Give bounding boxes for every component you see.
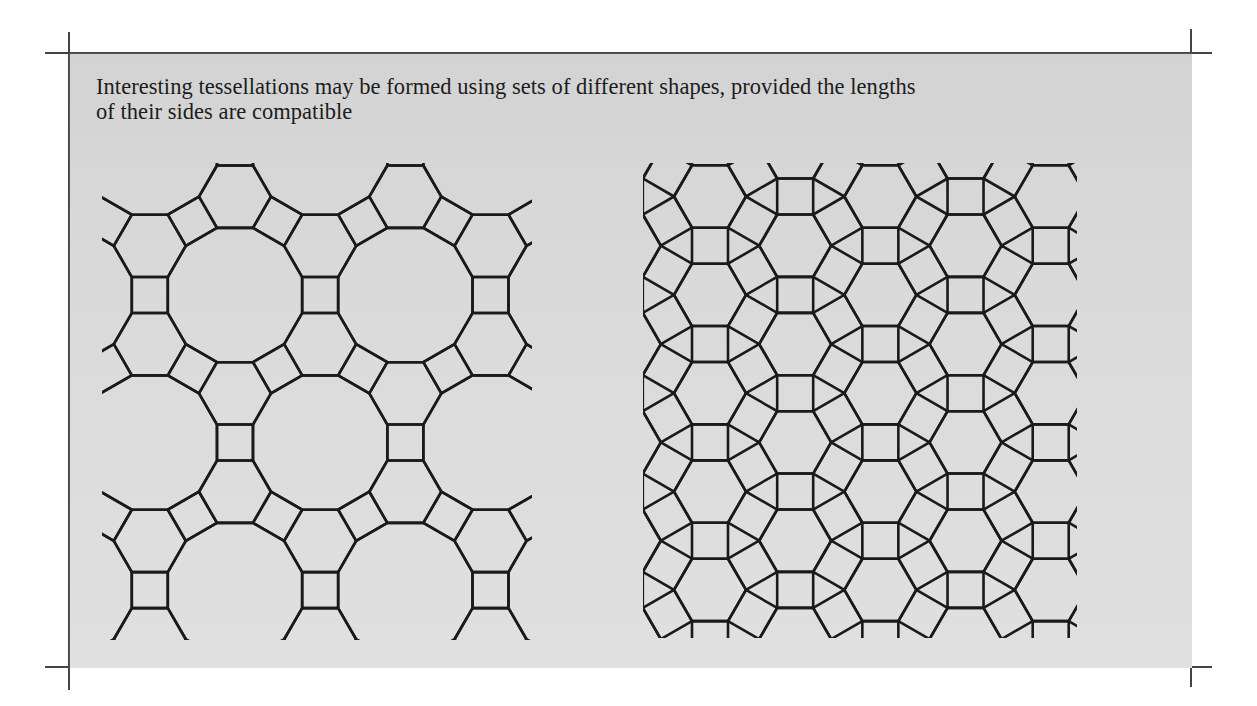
dodecagon xyxy=(423,80,557,214)
hexagon xyxy=(844,559,916,621)
square xyxy=(558,147,607,196)
square xyxy=(813,688,862,706)
square xyxy=(984,639,1033,688)
square xyxy=(764,49,813,98)
square xyxy=(1154,590,1203,639)
square xyxy=(728,49,777,98)
hexagon xyxy=(1015,0,1087,31)
square xyxy=(934,197,983,246)
square xyxy=(692,424,728,460)
dodecagon xyxy=(509,228,643,362)
hexagon xyxy=(1100,215,1172,277)
hexagon xyxy=(930,411,1002,473)
square xyxy=(168,639,217,688)
square xyxy=(643,492,692,541)
hexagon xyxy=(795,18,867,80)
dodecagon xyxy=(0,670,47,706)
square xyxy=(1069,98,1118,147)
square xyxy=(594,197,643,246)
square xyxy=(643,688,692,706)
square xyxy=(338,492,387,541)
hexagon xyxy=(844,165,916,227)
hexagon xyxy=(199,67,271,129)
square xyxy=(984,590,1033,639)
hexagon xyxy=(114,215,186,277)
square xyxy=(1154,49,1203,98)
square xyxy=(692,228,728,264)
hexagon xyxy=(844,657,916,706)
square xyxy=(1033,326,1069,362)
hexagon xyxy=(455,18,527,80)
square xyxy=(728,393,777,442)
hexagon xyxy=(759,608,831,670)
square xyxy=(1069,541,1118,590)
square xyxy=(692,326,728,362)
square xyxy=(1069,147,1118,196)
square xyxy=(0,492,47,541)
square xyxy=(643,344,692,393)
tiling-4-6-12 xyxy=(0,0,1069,706)
hexagon xyxy=(369,362,441,424)
dodecagon xyxy=(0,228,132,362)
square xyxy=(1203,621,1239,657)
square xyxy=(1154,197,1203,246)
square xyxy=(1069,639,1118,688)
square xyxy=(0,49,47,98)
square xyxy=(813,442,862,491)
hexagon xyxy=(1185,559,1257,621)
square xyxy=(643,0,679,18)
dodecagon xyxy=(0,80,47,214)
hexagon xyxy=(199,166,271,228)
hexagon xyxy=(844,362,916,424)
hexagon xyxy=(710,657,782,706)
square xyxy=(1154,639,1203,688)
square xyxy=(607,572,643,608)
square xyxy=(777,670,813,706)
square xyxy=(728,130,764,166)
square xyxy=(898,442,947,491)
square xyxy=(813,147,862,196)
square xyxy=(1118,80,1154,116)
square xyxy=(558,344,607,393)
hexagon xyxy=(710,67,782,129)
square xyxy=(168,49,217,98)
hexagon xyxy=(455,510,527,572)
square xyxy=(777,474,813,510)
hexagon xyxy=(1100,608,1172,670)
square xyxy=(898,147,947,196)
hexagon xyxy=(540,362,612,424)
square xyxy=(813,98,862,147)
square xyxy=(1069,492,1118,541)
square xyxy=(813,197,862,246)
hexagon xyxy=(759,313,831,375)
dodecagon xyxy=(764,670,898,706)
dodecagon xyxy=(423,375,557,509)
square xyxy=(132,0,168,18)
hexagon xyxy=(1015,362,1087,424)
square xyxy=(862,424,898,460)
hexagon xyxy=(199,362,271,424)
square xyxy=(473,0,509,18)
square xyxy=(83,639,132,688)
square xyxy=(984,49,1033,98)
square xyxy=(423,197,472,246)
square xyxy=(948,572,984,608)
hexagon xyxy=(284,313,356,375)
hexagon xyxy=(504,362,576,424)
hexagon xyxy=(1015,460,1087,522)
square xyxy=(1069,0,1118,49)
square xyxy=(558,590,607,639)
square xyxy=(387,130,423,166)
square xyxy=(813,49,862,98)
hexagon xyxy=(114,608,186,670)
square xyxy=(509,49,558,98)
dodecagon xyxy=(0,523,132,657)
tiling-3-4-6-4 xyxy=(504,0,1257,706)
square xyxy=(607,375,643,411)
square xyxy=(594,492,643,541)
hexagon xyxy=(284,18,356,80)
square xyxy=(984,0,1033,49)
square xyxy=(813,492,862,541)
square xyxy=(558,393,607,442)
square xyxy=(522,31,558,67)
